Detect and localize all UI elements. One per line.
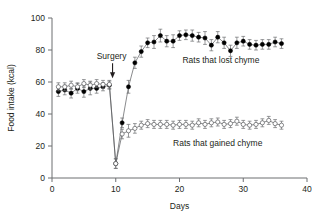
x-tick-label: 30 bbox=[239, 184, 249, 194]
data-point-filled bbox=[279, 42, 283, 46]
data-point-filled bbox=[248, 42, 252, 46]
data-point-open bbox=[95, 82, 99, 86]
data-point-filled bbox=[197, 35, 201, 39]
data-point-filled bbox=[120, 121, 124, 125]
series-label-lost-chyme: Rats that lost chyme bbox=[182, 55, 259, 65]
data-point-open bbox=[203, 122, 207, 126]
x-tick-label: 40 bbox=[302, 184, 312, 194]
series-label-gained-chyme: Rats that gained chyme bbox=[173, 138, 263, 148]
food-intake-line-chart: 010203040020406080100DaysFood intake (kc… bbox=[0, 0, 316, 217]
y-tick-label: 80 bbox=[36, 45, 46, 55]
data-point-open bbox=[216, 120, 220, 124]
data-point-filled bbox=[267, 42, 271, 46]
data-point-open bbox=[197, 121, 201, 125]
data-point-filled bbox=[190, 34, 194, 38]
data-point-open bbox=[101, 82, 105, 86]
data-point-open bbox=[126, 129, 130, 133]
data-point-open bbox=[75, 85, 79, 89]
x-axis-title: Days bbox=[170, 201, 189, 211]
data-point-open bbox=[82, 82, 86, 86]
data-point-open bbox=[273, 122, 277, 126]
data-point-open bbox=[107, 82, 111, 86]
data-point-open bbox=[190, 123, 194, 127]
data-point-filled bbox=[158, 34, 162, 38]
data-point-filled bbox=[260, 42, 264, 46]
data-point-filled bbox=[146, 41, 150, 45]
data-point-open bbox=[177, 122, 181, 126]
data-point-filled bbox=[69, 91, 73, 95]
data-point-open bbox=[228, 122, 232, 126]
data-point-filled bbox=[235, 41, 239, 45]
data-point-filled bbox=[171, 39, 175, 43]
y-tick-label: 0 bbox=[40, 173, 45, 183]
data-point-open bbox=[139, 123, 143, 127]
data-point-open bbox=[56, 85, 60, 89]
data-point-open bbox=[184, 122, 188, 126]
data-point-open bbox=[222, 122, 226, 126]
data-point-filled bbox=[184, 33, 188, 37]
surgery-down-arrow-icon bbox=[110, 63, 115, 78]
data-point-open bbox=[120, 132, 124, 136]
data-point-filled bbox=[254, 43, 258, 47]
data-point-filled bbox=[82, 90, 86, 94]
data-point-open bbox=[88, 83, 92, 87]
data-point-open bbox=[241, 122, 245, 126]
data-point-filled bbox=[177, 34, 181, 38]
arrow-head bbox=[110, 72, 115, 78]
data-point-filled bbox=[152, 40, 156, 44]
data-point-filled bbox=[241, 39, 245, 43]
data-point-filled bbox=[216, 35, 220, 39]
data-point-open bbox=[171, 123, 175, 127]
data-point-open bbox=[235, 119, 239, 123]
data-point-open bbox=[165, 122, 169, 126]
data-point-filled bbox=[133, 61, 137, 65]
data-point-open bbox=[260, 121, 264, 125]
data-point-open bbox=[146, 122, 150, 126]
data-point-filled bbox=[222, 41, 226, 45]
data-point-filled bbox=[165, 39, 169, 43]
surgery-annotation-label: Surgery bbox=[97, 51, 128, 61]
data-point-filled bbox=[273, 40, 277, 44]
x-tick-label: 0 bbox=[50, 184, 55, 194]
data-point-open bbox=[114, 162, 118, 166]
x-tick-label: 10 bbox=[111, 184, 121, 194]
data-point-filled bbox=[126, 85, 130, 89]
y-tick-label: 20 bbox=[36, 141, 46, 151]
chart-figure: 010203040020406080100DaysFood intake (kc… bbox=[0, 0, 316, 217]
y-axis-title: Food intake (kcal) bbox=[6, 64, 16, 132]
data-point-open bbox=[152, 122, 156, 126]
data-point-open bbox=[158, 122, 162, 126]
data-point-filled bbox=[209, 43, 213, 47]
data-point-filled bbox=[203, 36, 207, 40]
data-point-open bbox=[133, 126, 137, 130]
y-tick-label: 40 bbox=[36, 109, 46, 119]
data-point-open bbox=[254, 122, 258, 126]
y-tick-label: 60 bbox=[36, 77, 46, 87]
x-tick-label: 20 bbox=[175, 184, 185, 194]
data-point-open bbox=[267, 118, 271, 122]
data-point-filled bbox=[228, 49, 232, 53]
data-point-open bbox=[279, 123, 283, 127]
data-point-open bbox=[248, 123, 252, 127]
y-tick-label: 100 bbox=[31, 13, 45, 23]
data-point-filled bbox=[139, 50, 143, 54]
data-point-open bbox=[209, 121, 213, 125]
data-point-open bbox=[63, 85, 67, 89]
data-point-open bbox=[69, 83, 73, 87]
